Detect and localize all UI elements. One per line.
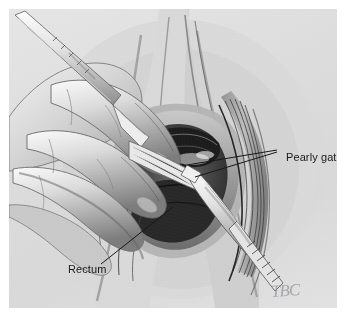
annotation-label-pearly-gates: Pearly gates [286,151,337,163]
artist-signature: TBC [270,280,300,302]
figure-root: Pearly gates Rectum TBC [0,0,345,326]
illustration-panel: Pearly gates Rectum TBC [9,9,337,308]
annotation-label-rectum: Rectum [68,263,107,275]
